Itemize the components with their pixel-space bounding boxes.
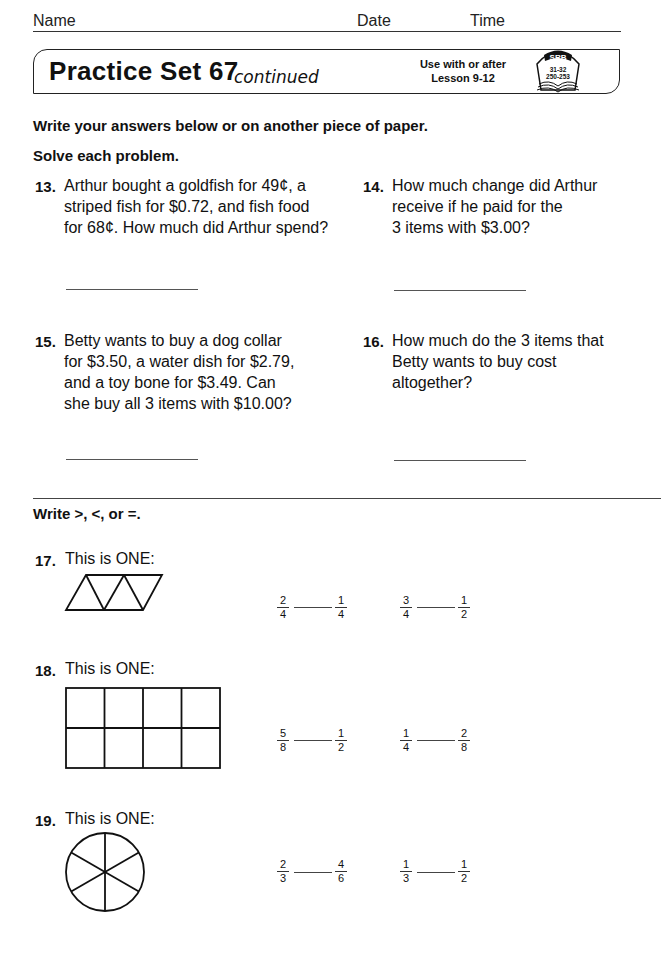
problem-17-label: This is ONE:: [65, 550, 155, 568]
compare-blank[interactable]: [417, 607, 455, 608]
compare-blank[interactable]: [417, 740, 455, 741]
problem-15-text: Betty wants to buy a dog collar for $3.5…: [64, 330, 294, 414]
fraction: 12: [458, 859, 470, 884]
compare-blank[interactable]: [294, 872, 332, 873]
answer-line-16[interactable]: [394, 460, 526, 461]
srb-pages-2: 250-253: [546, 73, 570, 80]
fraction: 13: [400, 859, 412, 884]
fraction: 12: [458, 595, 470, 620]
srb-badge-text: SRB: [550, 53, 567, 62]
problem-16-text: How much do the 3 items that Betty wants…: [392, 330, 604, 393]
title-continued: continued: [234, 67, 319, 87]
fraction: 58: [277, 728, 289, 753]
problem-19-label: This is ONE:: [65, 810, 155, 828]
name-label: Name: [33, 12, 76, 30]
instruction-answers: Write your answers below or on another p…: [33, 117, 428, 134]
compare-instruction: Write >, <, or =.: [33, 505, 141, 522]
fraction: 12: [335, 728, 347, 753]
problem-18-number: 18.: [35, 662, 56, 679]
fraction: 46: [335, 859, 347, 884]
problem-13-number: 13.: [35, 178, 56, 195]
fraction: 14: [335, 595, 347, 620]
header-rule: [33, 31, 621, 32]
fraction: 14: [400, 728, 412, 753]
compare-blank[interactable]: [417, 872, 455, 873]
compare-blank[interactable]: [294, 607, 332, 608]
use-with-line1: Use with or after: [418, 57, 508, 71]
date-label: Date: [357, 12, 391, 30]
circle-sectors-shape-icon: [63, 830, 147, 914]
srb-book-icon: SRB 31-32 250-253: [527, 48, 589, 96]
fraction: 24: [277, 595, 289, 620]
problem-14-text: How much change did Arthur receive if he…: [392, 175, 597, 238]
problem-13-text: Arthur bought a goldfish for 49¢, a stri…: [64, 175, 328, 238]
answer-line-14[interactable]: [394, 290, 526, 291]
fraction: 34: [400, 595, 412, 620]
problem-16-number: 16.: [363, 333, 384, 350]
instruction-solve: Solve each problem.: [33, 147, 179, 164]
lesson-reference: Use with or after Lesson 9-12: [418, 57, 508, 85]
problem-19-number: 19.: [35, 812, 56, 829]
srb-pages-1: 31-32: [550, 66, 567, 73]
problem-17-number: 17.: [35, 552, 56, 569]
section-divider: [33, 498, 661, 499]
use-with-line2: Lesson 9-12: [418, 71, 508, 85]
problem-15-number: 15.: [35, 333, 56, 350]
page-title: Practice Set 67: [49, 56, 239, 87]
triangles-shape-icon: [60, 570, 170, 615]
problem-14-number: 14.: [363, 178, 384, 195]
compare-blank[interactable]: [294, 740, 332, 741]
fraction: 28: [458, 728, 470, 753]
answer-line-15[interactable]: [66, 459, 198, 460]
fraction: 23: [277, 859, 289, 884]
rectangle-grid-shape-icon: [64, 686, 224, 770]
answer-line-13[interactable]: [66, 289, 198, 290]
time-label: Time: [470, 12, 505, 30]
problem-18-label: This is ONE:: [65, 660, 155, 678]
